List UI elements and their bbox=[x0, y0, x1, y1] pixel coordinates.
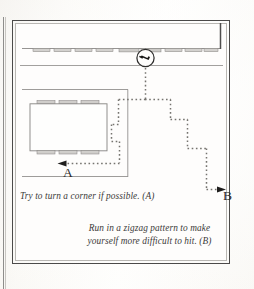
caption-route-a: Try to turn a corner if possible. (A) bbox=[20, 190, 154, 203]
gun-in-circle-icon bbox=[137, 49, 154, 66]
corridor-bench bbox=[75, 49, 92, 52]
chair bbox=[37, 151, 55, 154]
scanned-page: A B Try to turn a corner if possible. (A… bbox=[0, 0, 254, 289]
book-spine-line bbox=[3, 17, 4, 289]
corridor-bench-row bbox=[33, 49, 218, 52]
corridor-group bbox=[20, 23, 223, 66]
corridor-bench bbox=[204, 49, 218, 52]
book-spine-line-secondary bbox=[5, 17, 6, 289]
chair bbox=[81, 151, 99, 154]
corridor-bench bbox=[96, 49, 113, 52]
label-point-a: A bbox=[63, 166, 73, 180]
route-b-path bbox=[145, 100, 221, 190]
chair bbox=[59, 151, 77, 154]
conference-table bbox=[30, 104, 107, 151]
corridor-bench bbox=[54, 49, 71, 52]
corridor-bench bbox=[119, 49, 139, 52]
corridor-bench bbox=[33, 49, 50, 52]
corridor-bench bbox=[185, 49, 202, 52]
label-point-b: B bbox=[223, 189, 232, 203]
caption-route-b: Run in a zigzag pattern to make yourself… bbox=[82, 222, 217, 248]
corridor-bench bbox=[165, 49, 182, 52]
chair-row-bottom bbox=[37, 151, 99, 154]
